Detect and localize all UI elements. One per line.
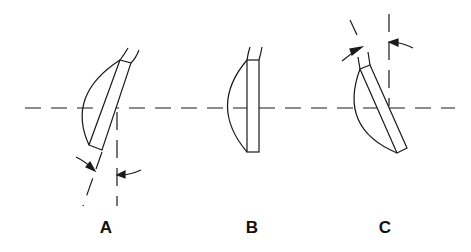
- arrowhead-icon: [389, 39, 398, 46]
- lens-b-flat-element: [247, 60, 259, 152]
- lens-b: [228, 47, 263, 152]
- lens-c-flat-element: [360, 65, 407, 153]
- lens-a-flat-element: [89, 60, 131, 150]
- figure-label-a: A: [100, 218, 112, 238]
- arrowhead-icon: [350, 47, 362, 55]
- lens-a: [76, 48, 141, 206]
- figure-label-c: C: [379, 218, 391, 238]
- lens-diagram: [0, 0, 471, 252]
- lens-c: [342, 14, 413, 153]
- lens-a-tilted-reference: [83, 152, 102, 206]
- figure-label-b: B: [246, 218, 258, 238]
- lens-c-tilted-reference: [350, 20, 357, 35]
- lens-b-mount-lines: [247, 47, 262, 60]
- lens-b-convex-surface: [228, 60, 248, 152]
- arrowhead-icon: [117, 171, 125, 178]
